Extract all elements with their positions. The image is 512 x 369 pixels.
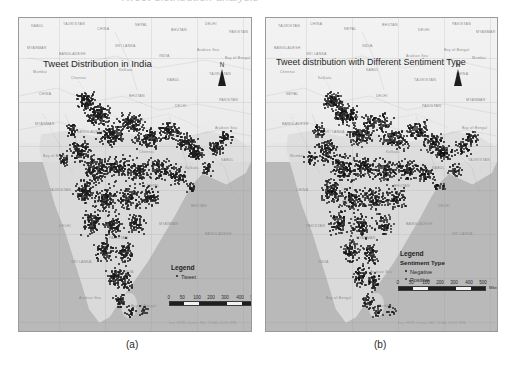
tweet-point: [412, 129, 414, 131]
tweet-point: [380, 227, 382, 229]
tweet-point: [409, 160, 411, 162]
tweet-point: [371, 217, 373, 219]
tweet-point: [128, 305, 130, 307]
tweet-point: [379, 225, 381, 227]
tweet-point: [387, 179, 389, 181]
tweet-point: [90, 214, 92, 216]
tweet-point: [164, 132, 166, 134]
tweet-point: [474, 131, 476, 133]
map-panel-b: TAJIKISTANCHINANEPALBHUTANDELHIPAKISTANM…: [265, 17, 498, 332]
tweet-point: [343, 107, 345, 109]
tweet-point: [83, 164, 85, 166]
tweet-point: [346, 231, 348, 233]
tweet-point: [375, 251, 377, 253]
tweet-point: [115, 138, 117, 140]
tweet-point: [376, 196, 378, 198]
tweet-point: [329, 211, 331, 213]
tweet-point: [194, 156, 196, 158]
tweet-point: [97, 179, 99, 181]
tweet-point: [328, 147, 330, 149]
tweet-point: [212, 161, 214, 163]
tweet-point: [346, 246, 348, 248]
tweet-point: [95, 181, 97, 183]
tweet-point: [477, 139, 479, 141]
tweet-point: [97, 132, 99, 134]
scale-tick-label: 300: [451, 280, 459, 285]
tweet-point: [425, 178, 427, 180]
tweet-point: [321, 145, 323, 147]
tweet-point: [393, 223, 395, 225]
tweet-point: [104, 176, 106, 178]
tweet-point: [390, 123, 392, 125]
tweet-point: [371, 276, 373, 278]
tweet-point: [84, 92, 86, 94]
tweet-point: [405, 205, 407, 207]
tweet-point: [113, 133, 115, 135]
tweet-point: [104, 226, 106, 228]
tweet-point: [98, 182, 100, 184]
tweet-point: [330, 171, 332, 173]
tweet-point: [367, 118, 369, 120]
tweet-point: [354, 173, 356, 175]
tweet-point: [150, 173, 152, 175]
tweet-point: [377, 305, 379, 307]
tweet-point: [419, 178, 421, 180]
tweet-point: [181, 141, 183, 143]
tweet-point: [77, 144, 79, 146]
tweet-point: [123, 270, 125, 272]
tweet-point: [332, 105, 334, 107]
tweet-point: [343, 216, 345, 218]
tweet-point: [83, 226, 85, 228]
tweet-point: [443, 149, 445, 151]
tweet-point: [376, 258, 378, 260]
tweet-point: [354, 247, 356, 249]
tweet-point: [129, 275, 131, 277]
tweet-point: [366, 166, 368, 168]
tweet-point: [173, 138, 175, 140]
tweet-point: [458, 171, 460, 173]
tweet-point: [460, 153, 462, 155]
tweet-point: [112, 199, 114, 201]
tweet-point: [118, 174, 120, 176]
tweet-point: [340, 107, 342, 109]
tweet-point: [339, 155, 341, 157]
tweet-point: [113, 195, 115, 197]
tweet-point: [435, 139, 437, 141]
scale-tick-label: 0: [396, 280, 399, 285]
tweet-point: [416, 131, 418, 133]
tweet-point: [350, 171, 352, 173]
tweet-point: [84, 228, 86, 230]
tweet-point: [344, 118, 346, 120]
map-attribution-a: Esri, HERE, Garmin, FAO, NOAA, USGS, EPA: [169, 321, 236, 325]
tweet-point: [342, 223, 344, 225]
tweet-point: [119, 121, 121, 123]
tweet-point: [72, 193, 74, 195]
tweet-point: [330, 187, 332, 189]
tweet-point: [392, 185, 394, 187]
tweet-point: [403, 135, 405, 137]
legend-a: Legend Tweet: [171, 264, 192, 279]
tweet-point: [335, 228, 337, 230]
tweet-point: [371, 115, 373, 117]
tweet-point: [375, 122, 377, 124]
tweet-point: [104, 254, 106, 256]
scale-tick-labels-a: 050100200300400500: [169, 295, 251, 301]
tweet-point: [363, 268, 365, 270]
tweet-point: [314, 131, 316, 133]
tweet-point: [162, 166, 164, 168]
tweet-point: [191, 140, 193, 142]
tweet-point: [113, 122, 115, 124]
tweet-point: [177, 179, 179, 181]
tweet-point: [446, 147, 448, 149]
tweet-point: [174, 123, 176, 125]
tweet-point: [117, 282, 119, 284]
tweet-point: [340, 246, 342, 248]
tweet-point: [111, 125, 113, 127]
tweet-point: [339, 172, 341, 174]
tweet-point: [93, 244, 95, 246]
tweet-point: [85, 210, 87, 212]
tweet-point: [340, 112, 342, 114]
tweet-point: [452, 164, 454, 166]
tweet-point: [349, 187, 351, 189]
tweet-point: [85, 192, 87, 194]
